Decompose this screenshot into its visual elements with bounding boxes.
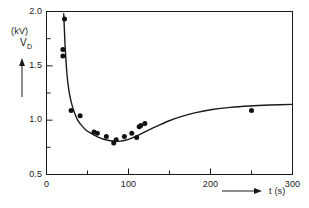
data-point (122, 134, 127, 139)
data-point (60, 47, 65, 52)
data-point (114, 137, 119, 142)
y-axis-symbol-label: VD (20, 37, 32, 50)
x-tick-label: 200 (191, 179, 231, 189)
x-axis-arrow (222, 188, 262, 194)
y-axis-ticks (47, 12, 53, 175)
x-tick-label: 100 (109, 179, 149, 189)
data-point (78, 113, 83, 118)
figure-container: (kV) VD t (s) 2.01.51.00.5 0100200300 (0, 0, 308, 208)
y-tick-label: 2.0 (16, 6, 42, 16)
data-point (60, 54, 65, 59)
plot-canvas (0, 0, 308, 208)
data-point (129, 131, 134, 136)
plot-frame (47, 12, 293, 175)
y-axis-symbol-base: V (20, 37, 27, 48)
data-point (134, 135, 139, 140)
x-tick-label: 0 (27, 179, 67, 189)
data-point (142, 121, 147, 126)
y-tick-label: 0.5 (16, 169, 42, 179)
x-axis-ticks (47, 169, 293, 175)
data-point (104, 134, 109, 139)
y-tick-label: 1.5 (16, 60, 42, 70)
data-point (69, 108, 74, 113)
x-tick-label: 300 (273, 179, 309, 189)
data-point (249, 108, 254, 113)
data-point (62, 17, 67, 22)
y-tick-label: 1.0 (16, 114, 42, 124)
axes-frame (47, 12, 293, 175)
fitted-curve (64, 14, 293, 142)
y-axis-unit-label: (kV) (11, 26, 28, 36)
y-axis-symbol-subscript: D (27, 43, 32, 50)
data-point (95, 131, 100, 136)
